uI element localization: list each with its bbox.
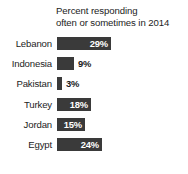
bar-track-egypt: 24% [57, 138, 102, 151]
chart-plot-area: Lebanon 29% Indonesia 9% Pakistan 3% [0, 36, 188, 157]
category-label-egypt: Egypt [0, 137, 52, 152]
bar-value-indonesia: 9% [78, 57, 91, 70]
bar-turkey: 18% [57, 98, 91, 111]
bar-row: Lebanon 29% [0, 36, 188, 56]
category-label-indonesia: Indonesia [0, 56, 52, 71]
category-label-lebanon: Lebanon [0, 36, 52, 51]
bar-track-lebanon: 29% [57, 37, 111, 50]
bar-egypt: 24% [57, 138, 102, 151]
bar-track-indonesia: 9% [57, 57, 74, 70]
bar-lebanon: 29% [57, 37, 111, 50]
bar-chart-figure: Percent responding often or sometimes in… [0, 0, 188, 174]
bar-track-turkey: 18% [57, 98, 91, 111]
bar-value-pakistan: 3% [66, 77, 79, 90]
category-label-jordan: Jordan [0, 117, 52, 132]
bar-row: Turkey 18% [0, 97, 188, 117]
bar-row: Pakistan 3% [0, 76, 188, 96]
bar-pakistan: 3% [57, 77, 62, 90]
bar-row: Jordan 15% [0, 117, 188, 137]
category-label-pakistan: Pakistan [0, 76, 52, 91]
bar-jordan: 15% [57, 118, 85, 131]
bar-value-lebanon: 29% [90, 37, 108, 50]
bar-track-pakistan: 3% [57, 77, 62, 90]
bar-indonesia: 9% [57, 57, 74, 70]
bar-row: Indonesia 9% [0, 56, 188, 76]
bar-value-jordan: 15% [64, 118, 82, 131]
chart-title: Percent responding often or sometimes in… [56, 5, 188, 28]
bar-row: Egypt 24% [0, 137, 188, 157]
category-label-turkey: Turkey [0, 97, 52, 112]
bar-track-jordan: 15% [57, 118, 85, 131]
bar-value-turkey: 18% [70, 98, 88, 111]
bar-value-egypt: 24% [81, 138, 99, 151]
